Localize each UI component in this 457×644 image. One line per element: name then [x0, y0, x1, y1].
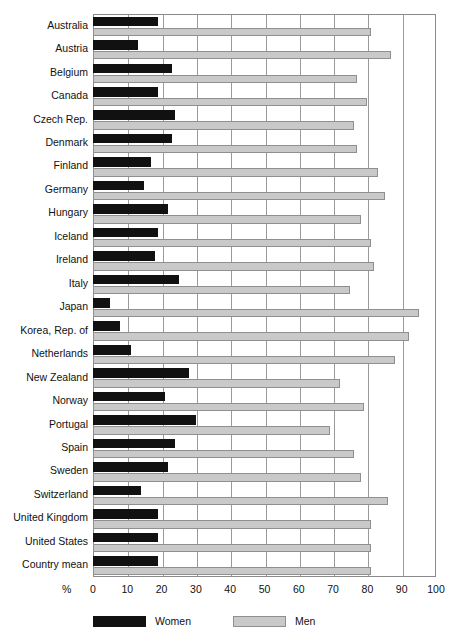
category-label: Portugal	[0, 419, 88, 430]
bar-row	[93, 178, 436, 201]
category-label: New Zealand	[0, 372, 88, 383]
category-label: Country mean	[0, 559, 88, 570]
category-label: Czech Rep.	[0, 114, 88, 125]
bar-men-norway	[93, 403, 364, 411]
bar-row	[93, 37, 436, 60]
bar-row	[93, 202, 436, 225]
bar-men-czech-rep	[93, 121, 354, 129]
bar-women-belgium	[93, 64, 172, 74]
bar-men-iceland	[93, 239, 371, 247]
value-axis-ticks: 0102030405060708090100	[93, 582, 436, 602]
bar-row	[93, 272, 436, 295]
horizontal-bar-chart: AustraliaAustriaBelgiumCanadaCzech Rep.D…	[0, 0, 457, 644]
bar-row	[93, 553, 436, 576]
bar-women-hungary	[93, 204, 168, 214]
x-tick-label-0: 0	[90, 582, 96, 596]
bar-men-hungary	[93, 215, 361, 223]
bar-row	[93, 249, 436, 272]
bar-row	[93, 295, 436, 318]
category-label: Finland	[0, 160, 88, 171]
bar-row	[93, 108, 436, 131]
category-label: United Kingdom	[0, 512, 88, 523]
x-tick-label-40: 40	[224, 582, 236, 596]
category-label: United States	[0, 536, 88, 547]
bar-women-spain	[93, 439, 175, 449]
x-tick-label-30: 30	[190, 582, 202, 596]
bar-men-spain	[93, 450, 354, 458]
legend-label: Women	[155, 615, 191, 627]
category-label: Iceland	[0, 231, 88, 242]
bar-women-country-mean	[93, 556, 158, 566]
bar-men-australia	[93, 28, 371, 36]
bar-row	[93, 389, 436, 412]
bar-rows-container	[93, 14, 436, 577]
bar-men-united-kingdom	[93, 520, 371, 528]
category-label: Korea, Rep. of	[0, 325, 88, 336]
bar-men-finland	[93, 168, 378, 176]
x-tick-label-20: 20	[156, 582, 168, 596]
legend-label: Men	[295, 615, 315, 627]
x-tick-label-50: 50	[259, 582, 271, 596]
bar-row	[93, 342, 436, 365]
legend-item: Men	[233, 615, 315, 627]
category-label: Norway	[0, 395, 88, 406]
bar-men-sweden	[93, 473, 361, 481]
bar-row	[93, 225, 436, 248]
percent-axis-unit: %	[62, 582, 71, 596]
bar-men-italy	[93, 286, 350, 294]
x-tick-label-60: 60	[293, 582, 305, 596]
bar-row	[93, 530, 436, 553]
bar-men-belgium	[93, 75, 357, 83]
bar-women-denmark	[93, 134, 172, 144]
bar-men-netherlands	[93, 356, 395, 364]
bar-women-finland	[93, 157, 151, 167]
bar-women-portugal	[93, 415, 196, 425]
category-label: Italy	[0, 278, 88, 289]
bar-men-canada	[93, 98, 367, 106]
x-tick-label-10: 10	[121, 582, 133, 596]
legend-item: Women	[93, 615, 191, 627]
x-tick-label-70: 70	[327, 582, 339, 596]
category-label: Belgium	[0, 67, 88, 78]
bar-men-korea-rep-of	[93, 332, 409, 340]
category-label: Spain	[0, 442, 88, 453]
category-label: Canada	[0, 90, 88, 101]
bar-women-iceland	[93, 228, 158, 238]
chart-legend: WomenMen	[93, 612, 315, 630]
legend-swatch-icon	[93, 616, 146, 627]
bar-row	[93, 460, 436, 483]
bar-women-switzerland	[93, 486, 141, 496]
bar-women-ireland	[93, 251, 155, 261]
bar-men-denmark	[93, 145, 357, 153]
category-label: Austria	[0, 43, 88, 54]
bar-women-new-zealand	[93, 368, 189, 378]
category-label: Sweden	[0, 465, 88, 476]
bar-row	[93, 413, 436, 436]
bar-men-japan	[93, 309, 419, 317]
bar-men-ireland	[93, 262, 374, 270]
bar-men-united-states	[93, 544, 371, 552]
bar-women-korea-rep-of	[93, 321, 120, 331]
bar-men-new-zealand	[93, 379, 340, 387]
bar-women-united-states	[93, 533, 158, 543]
x-tick-label-100: 100	[427, 582, 445, 596]
bar-men-country-mean	[93, 567, 371, 575]
bar-women-czech-rep	[93, 110, 175, 120]
x-tick-label-90: 90	[396, 582, 408, 596]
category-label: Hungary	[0, 207, 88, 218]
bar-row	[93, 155, 436, 178]
category-label: Japan	[0, 301, 88, 312]
bar-women-australia	[93, 17, 158, 27]
bar-women-norway	[93, 392, 165, 402]
bar-women-austria	[93, 40, 138, 50]
bar-row	[93, 61, 436, 84]
bar-row	[93, 483, 436, 506]
category-axis-labels: AustraliaAustriaBelgiumCanadaCzech Rep.D…	[0, 14, 88, 577]
bar-women-germany	[93, 181, 144, 191]
bar-row	[93, 366, 436, 389]
bar-row	[93, 319, 436, 342]
bar-men-germany	[93, 192, 385, 200]
bar-row	[93, 507, 436, 530]
bar-women-sweden	[93, 462, 168, 472]
x-tick-label-80: 80	[362, 582, 374, 596]
